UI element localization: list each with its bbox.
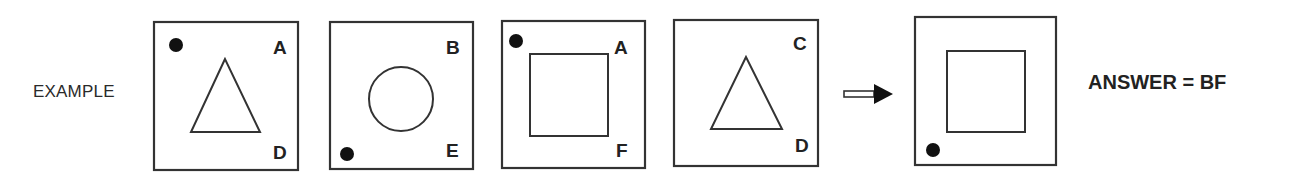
panel-4: C D — [674, 20, 818, 166]
panel-4-bottom-letter: D — [795, 135, 809, 156]
panel-1-bottom-letter: D — [273, 142, 287, 163]
panel-3-bottom-letter: F — [616, 140, 628, 161]
result-panel-square — [947, 51, 1025, 132]
panel-2-bottom-letter: E — [446, 140, 459, 161]
panel-3-top-letter: A — [614, 37, 628, 58]
panel-2-top-letter: B — [446, 37, 460, 58]
panel-4-top-letter: C — [793, 33, 807, 54]
answer-text: ANSWER = BF — [1088, 71, 1226, 94]
result-panel-frame — [915, 17, 1056, 165]
right-arrow-icon — [844, 84, 893, 104]
panel-1: A D — [154, 22, 298, 170]
panel-2-dot — [340, 147, 354, 161]
panel-1-triangle — [191, 59, 260, 132]
panel-3: A F — [502, 21, 645, 168]
panel-4-triangle — [711, 57, 782, 129]
panel-2-circle — [369, 67, 433, 131]
result-panel — [915, 17, 1056, 165]
panel-2: B E — [330, 22, 473, 169]
panel-1-top-letter: A — [273, 37, 287, 58]
panel-3-dot — [509, 34, 523, 48]
panel-3-square — [530, 54, 608, 136]
result-panel-dot — [926, 143, 940, 157]
panel-1-dot — [169, 38, 183, 52]
puzzle-diagram: A D B E A F C D — [0, 0, 1289, 191]
